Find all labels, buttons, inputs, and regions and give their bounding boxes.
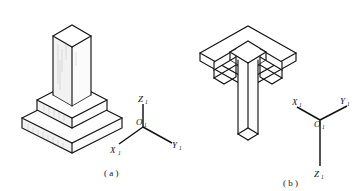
axis-label-y-a: Y bbox=[172, 140, 178, 150]
axis-label-y-b-subscript: 1 bbox=[347, 101, 350, 107]
axis-label-y-b: Y bbox=[340, 96, 346, 106]
axis-label-z-a: Z bbox=[138, 94, 144, 104]
caption-b: ( b ) bbox=[283, 178, 298, 188]
caption-a: ( a ) bbox=[104, 168, 119, 178]
axis-label-z-b: Z bbox=[314, 169, 320, 179]
axis-label-x-a-subscript: 1 bbox=[118, 150, 121, 156]
axis-label-origin-a: O bbox=[136, 117, 143, 127]
label-layer: Z 1 O 1 X 1 Y 1 ( a ) X 1 Y 1 O 1 Z 1 ( … bbox=[0, 0, 356, 191]
axis-label-y-a-subscript: 1 bbox=[179, 145, 182, 151]
axis-label-x-a: X bbox=[109, 145, 116, 155]
axis-label-z-a-subscript: 1 bbox=[145, 99, 148, 105]
figure-root: Z 1 O 1 X 1 Y 1 ( a ) X 1 Y 1 O 1 Z 1 ( … bbox=[0, 0, 356, 191]
axis-label-x-b-subscript: 1 bbox=[299, 102, 302, 108]
axis-label-origin-b: O bbox=[314, 119, 321, 129]
axis-label-origin-a-subscript: 1 bbox=[144, 122, 147, 128]
axis-label-z-b-subscript: 1 bbox=[321, 174, 324, 180]
axis-label-origin-b-subscript: 1 bbox=[322, 124, 325, 130]
axis-label-x-b: X bbox=[291, 97, 298, 107]
